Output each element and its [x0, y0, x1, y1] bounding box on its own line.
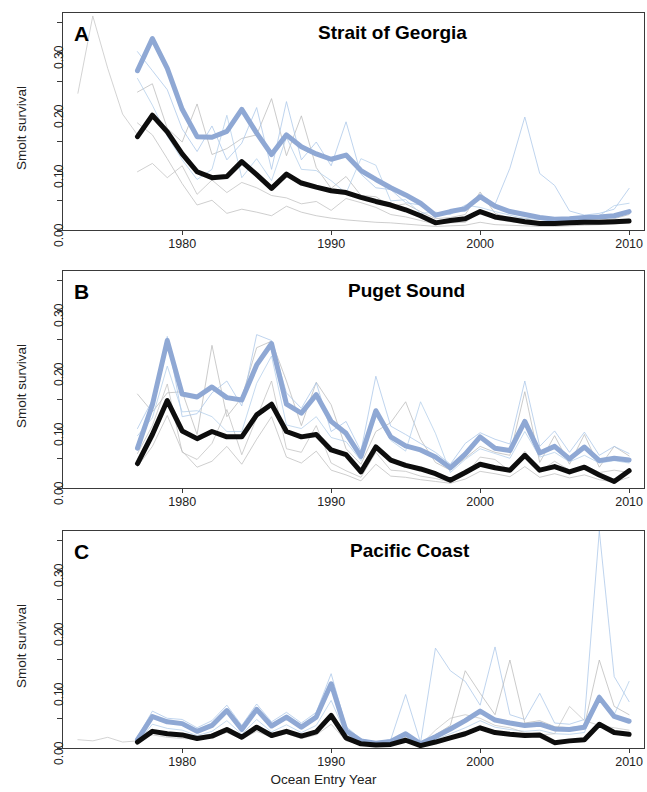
x-tick-mark: [629, 748, 630, 753]
x-tick-mark: [331, 748, 332, 753]
panel-letter-c: C: [74, 540, 89, 564]
x-tick-label: 1980: [157, 237, 207, 251]
x-tick-mark: [480, 488, 481, 493]
panel-letter-b: B: [74, 280, 89, 304]
plot-area-b: [62, 270, 645, 489]
y-tick-label: 0.20: [52, 623, 66, 646]
x-tick-label: 1980: [157, 495, 207, 509]
y-tick-mark: [57, 200, 62, 201]
series-line: [137, 531, 629, 743]
x-tick-label: 1990: [306, 495, 356, 509]
y-tick-mark: [57, 141, 62, 142]
x-tick-mark: [182, 488, 183, 493]
x-tick-mark: [629, 488, 630, 493]
y-tick-label: 0.30: [52, 303, 66, 326]
y-tick-mark: [57, 599, 62, 600]
panel-title-c: Pacific Coast: [350, 540, 469, 562]
panel-c: C Pacific Coast 0.000.100.200.30 1980199…: [0, 518, 647, 768]
y-tick-label: 0.10: [52, 422, 66, 445]
series-line: [137, 39, 629, 220]
x-tick-mark: [331, 488, 332, 493]
y-tick-label: 0.10: [52, 164, 66, 187]
x-tick-mark: [629, 230, 630, 235]
panel-title-a: Strait of Georgia: [318, 22, 467, 44]
x-tick-mark: [182, 230, 183, 235]
x-tick-label: 2010: [604, 755, 647, 769]
y-tick-label: 0.00: [52, 742, 66, 765]
plot-lines-a: [63, 13, 644, 230]
x-tick-mark: [182, 748, 183, 753]
x-tick-mark: [480, 230, 481, 235]
y-tick-label: 0.30: [52, 563, 66, 586]
y-tick-mark: [57, 458, 62, 459]
y-tick-label: 0.00: [52, 224, 66, 247]
x-tick-label: 2010: [604, 237, 647, 251]
panel-letter-a: A: [74, 22, 89, 46]
y-tick-mark: [57, 22, 62, 23]
x-tick-label: 1990: [306, 755, 356, 769]
y-tick-mark: [57, 339, 62, 340]
y-tick-mark: [57, 659, 62, 660]
x-tick-mark: [480, 748, 481, 753]
y-tick-mark: [57, 81, 62, 82]
x-tick-label: 2000: [455, 237, 505, 251]
panel-a: A Strait of Georgia 0.000.100.200.30 198…: [0, 0, 647, 250]
x-tick-label: 2000: [455, 755, 505, 769]
series-line: [137, 52, 629, 217]
series-line: [137, 401, 629, 482]
y-tick-mark: [57, 399, 62, 400]
plot-area-a: [62, 12, 645, 231]
plot-lines-b: [63, 271, 644, 488]
y-tick-mark: [57, 280, 62, 281]
y-tick-mark: [57, 718, 62, 719]
y-tick-label: 0.20: [52, 105, 66, 128]
y-tick-label: 0.00: [52, 482, 66, 505]
y-tick-mark: [57, 540, 62, 541]
x-tick-mark: [331, 230, 332, 235]
plot-area-c: [62, 530, 645, 749]
y-tick-label: 0.20: [52, 363, 66, 386]
series-line: [137, 163, 629, 225]
x-tick-label: 2010: [604, 495, 647, 509]
y-tick-label: 0.10: [52, 682, 66, 705]
x-tick-label: 2000: [455, 495, 505, 509]
x-tick-label: 1990: [306, 237, 356, 251]
x-tick-label: 1980: [157, 755, 207, 769]
panel-b: B Puget Sound 0.000.100.200.30 198019902…: [0, 258, 647, 508]
series-line: [137, 78, 629, 221]
plot-lines-c: [63, 531, 644, 748]
panel-title-b: Puget Sound: [348, 280, 465, 302]
figure-root: Smolt survival Smolt survival Smolt surv…: [0, 0, 647, 792]
x-axis-label: Ocean Entry Year: [0, 772, 647, 787]
y-tick-label: 0.30: [52, 45, 66, 68]
series-line: [137, 341, 629, 468]
